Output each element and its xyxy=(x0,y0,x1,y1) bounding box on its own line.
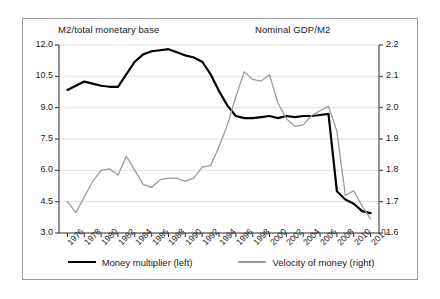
right-tick-label: 2.0 xyxy=(386,102,414,112)
chart-legend: Money multiplier (left) Velocity of mone… xyxy=(23,247,419,277)
right-tick-label: 1.9 xyxy=(386,133,414,143)
legend-label-velocity: Velocity of money (right) xyxy=(272,257,374,268)
left-tick-label: 4.5 xyxy=(25,196,53,206)
right-tick-label: 2.1 xyxy=(386,70,414,80)
chart-figure: M2/total monetary base Nominal GDP/M2 3.… xyxy=(22,18,418,280)
black-line-swatch xyxy=(68,261,96,263)
legend-label-money-multiplier: Money multiplier (left) xyxy=(102,257,193,268)
left-tick-label: 9.0 xyxy=(25,102,53,112)
series-line-0 xyxy=(67,49,370,213)
right-tick-label: 1.8 xyxy=(386,164,414,174)
left-tick-label: 10.5 xyxy=(25,70,53,80)
left-tick-label: 7.5 xyxy=(25,133,53,143)
legend-item-velocity: Velocity of money (right) xyxy=(238,257,374,268)
axis-ticks xyxy=(55,45,383,237)
left-tick-label: 6.0 xyxy=(25,164,53,174)
right-tick-label: 2.2 xyxy=(386,39,414,49)
gray-line-swatch xyxy=(238,261,266,263)
legend-item-money-multiplier: Money multiplier (left) xyxy=(68,257,193,268)
right-tick-label: 1.6 xyxy=(386,227,414,237)
data-series xyxy=(67,49,370,219)
series-line-1 xyxy=(67,72,370,219)
right-tick-label: 1.7 xyxy=(386,196,414,206)
left-tick-label: 3.0 xyxy=(25,227,53,237)
left-tick-label: 12.0 xyxy=(25,39,53,49)
